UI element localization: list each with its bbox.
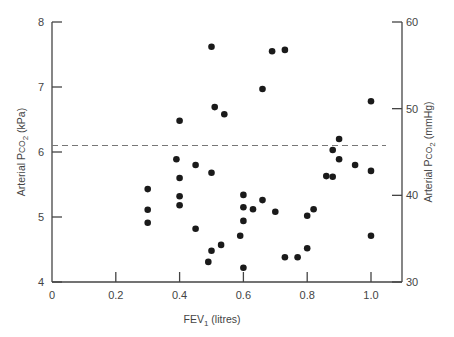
data-point [323, 173, 330, 180]
x-tick-label: 0.4 [172, 289, 187, 301]
y-tick-label-right: 30 [406, 276, 418, 288]
data-point [237, 233, 244, 240]
data-point [329, 173, 336, 180]
data-point [304, 212, 311, 219]
data-point [144, 207, 151, 214]
data-point [259, 86, 266, 93]
scatter-chart: 456783040506000.20.40.60.81.0 FEV1 (litr… [0, 0, 454, 337]
y-tick-label-right: 60 [406, 16, 418, 28]
data-point [272, 209, 279, 216]
x-tick-label: 1.0 [363, 289, 378, 301]
data-point [176, 202, 183, 209]
data-point [336, 156, 343, 163]
ticks: 456783040506000.20.40.60.81.0 [38, 16, 418, 301]
y-tick-label-left: 5 [38, 211, 44, 223]
data-point [368, 168, 375, 175]
y-tick-label-left: 4 [38, 276, 44, 288]
data-point [352, 162, 359, 169]
data-point [240, 204, 247, 211]
data-point [336, 136, 343, 143]
data-point [368, 98, 375, 105]
x-tick-label: 0.8 [300, 289, 315, 301]
data-point [211, 104, 218, 111]
data-points [144, 43, 374, 271]
axes [52, 22, 402, 282]
x-tick-label: 0.2 [108, 289, 123, 301]
data-point [250, 206, 257, 213]
y-tick-label-left: 8 [38, 16, 44, 28]
data-point [173, 156, 180, 163]
data-point [294, 254, 301, 261]
data-point [368, 233, 375, 240]
y-tick-label-right: 50 [406, 103, 418, 115]
data-point [269, 48, 276, 55]
x-tick-label: 0 [49, 289, 55, 301]
y-axis-right-title: Arterial PCO2 (mmHg) [422, 101, 437, 202]
y-tick-label-right: 40 [406, 189, 418, 201]
data-point [282, 47, 289, 54]
data-point [240, 264, 247, 271]
x-tick-label: 0.6 [236, 289, 251, 301]
data-point [208, 170, 215, 177]
x-axis-title: FEV1 (litres) [184, 313, 241, 328]
data-point [176, 193, 183, 200]
data-point [240, 218, 247, 225]
data-point [192, 225, 199, 232]
data-point [208, 248, 215, 255]
data-point [282, 254, 289, 261]
y-tick-label-left: 6 [38, 146, 44, 158]
data-point [144, 186, 151, 193]
data-point [304, 245, 311, 252]
data-point [259, 197, 266, 204]
y-axis-left-title: Arterial PCO2 (kPa) [15, 108, 30, 196]
data-point [329, 147, 336, 154]
data-point [240, 192, 247, 199]
data-point [221, 111, 228, 118]
y-tick-label-left: 7 [38, 81, 44, 93]
data-point [192, 162, 199, 169]
data-point [310, 206, 317, 213]
data-point [218, 242, 225, 249]
data-point [176, 118, 183, 125]
data-point [176, 175, 183, 182]
data-point [208, 43, 215, 50]
data-point [205, 259, 212, 266]
data-point [144, 220, 151, 227]
